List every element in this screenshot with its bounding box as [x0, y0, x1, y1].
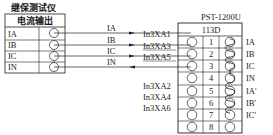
terminal-number: 7: [209, 110, 213, 120]
left-device-header: 电流输出: [17, 15, 53, 26]
right-device-title: PST-1200U: [201, 12, 241, 22]
terminal-number: 5: [209, 86, 213, 96]
terminal-number: 8: [209, 122, 213, 132]
right-row-label: IC': [246, 110, 257, 120]
right-row-label: IC: [246, 61, 255, 71]
wire-signal-label: IB: [107, 35, 116, 45]
terminal-label: In3XA4: [143, 92, 172, 102]
terminal-number: 4: [209, 73, 214, 83]
left-row-label: IA: [8, 29, 18, 39]
terminal-number: 6: [209, 98, 213, 108]
terminal-number: 3: [209, 61, 213, 71]
wire-terminal-label: In3XA1: [143, 29, 171, 39]
right-row-labels: IA IB IC IN IA' IB' IC': [246, 37, 257, 120]
wire-labels: IA IB IC IN In3XA1 In3XA3 In3XA5 In3XA2 …: [107, 23, 176, 113]
right-row-label: IN: [246, 73, 255, 83]
arrow-icon: [129, 32, 135, 69]
right-row-label: IB': [246, 98, 257, 108]
wiring-diagram: 继保测试仪 电流输出 IA IB IC IN IA IB IC IN: [0, 0, 273, 135]
left-device-title: 继保测试仪: [11, 2, 57, 13]
terminal-block-id: 113D: [202, 25, 221, 35]
terminal-circle-icon: [50, 29, 59, 72]
left-row-label: IB: [8, 40, 17, 50]
wire-signal-label: IA: [107, 23, 117, 33]
left-device: 继保测试仪 电流输出 IA IB IC IN: [5, 2, 65, 73]
wire-terminal-label: In3XA3: [143, 41, 171, 51]
right-row-label: IA: [246, 37, 256, 47]
terminal-number: 2: [209, 49, 213, 59]
terminal-label: In3XA2: [143, 81, 171, 91]
left-row-label: IN: [8, 62, 17, 72]
terminal-number: 1: [209, 37, 213, 47]
wire-terminal-label: In3XA5: [143, 52, 171, 62]
terminal-numbers: 1 2 3 4 5 6 7 8: [209, 37, 214, 132]
wire-signal-label: IN: [107, 57, 116, 67]
right-row-label: IB: [246, 49, 255, 59]
right-device: PST-1200U 113D 1 2 3 4: [178, 12, 257, 133]
right-row-label: IA': [246, 86, 257, 96]
terminal-label: In3XA6: [143, 103, 171, 113]
wire-signal-label: IC: [107, 46, 116, 56]
left-row-label: IC: [8, 51, 17, 61]
